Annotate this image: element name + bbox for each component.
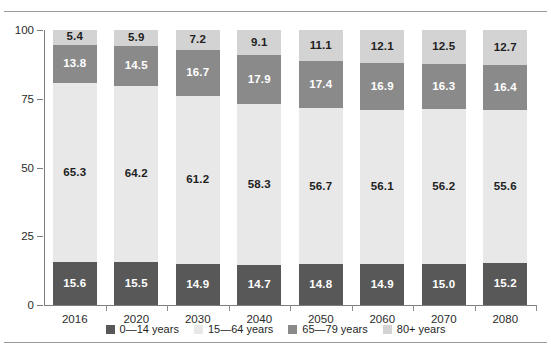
bar-segment[interactable]: 5.9 [114,30,158,46]
bar-segment[interactable]: 55.6 [483,110,527,263]
bar-segment-value-label: 56.1 [371,181,394,193]
bar-segment[interactable]: 11.1 [299,30,343,61]
bar-segment-value-label: 17.4 [309,79,332,91]
bottom-divider-rule [4,342,547,343]
bar-segment-value-label: 14.9 [371,279,394,291]
y-axis-tick [37,30,43,31]
top-divider-rule [4,11,547,12]
bar-segment-value-label: 16.3 [432,81,455,93]
bar-segment-value-label: 16.9 [371,81,394,93]
bar-segment[interactable]: 14.7 [237,265,281,305]
stacked-bar[interactable]: 14.956.116.912.1 [360,30,404,305]
bar-segment[interactable]: 7.2 [176,30,220,50]
x-axis-tick [106,305,107,311]
stacked-bar[interactable]: 15.056.216.312.5 [422,30,466,305]
bar-segment-value-label: 9.1 [251,37,267,49]
legend-label: 0—14 years [120,323,179,335]
stacked-bar[interactable]: 15.255.616.412.7 [483,30,527,305]
bar-segment-value-label: 14.9 [186,279,209,291]
y-axis-tick [37,99,43,100]
bar-segment[interactable]: 15.0 [422,264,466,305]
bar-segment-value-label: 14.5 [125,60,148,72]
legend-swatch-icon [106,325,115,334]
bar-segment[interactable]: 16.4 [483,65,527,110]
bar-segment-value-label: 14.8 [309,279,332,291]
bar-segment-value-label: 11.1 [310,40,332,52]
bar-segment[interactable]: 17.9 [237,55,281,104]
stacked-bar[interactable]: 14.961.216.77.2 [176,30,220,305]
bar-segment[interactable]: 12.7 [483,30,527,65]
bar-segment-value-label: 13.8 [63,58,86,70]
bar-segment[interactable]: 14.9 [360,264,404,305]
legend-item[interactable]: 0—14 years [106,323,179,335]
legend-swatch-icon [383,325,392,334]
bar-segment-value-label: 56.7 [309,181,332,193]
bar-segment-value-label: 64.2 [125,168,148,180]
bar-segment[interactable]: 56.7 [299,108,343,264]
bar-segment-value-label: 5.4 [67,31,83,43]
bar-segment-value-label: 16.4 [494,82,517,94]
bar-segment-value-label: 55.6 [494,181,517,193]
bar-segment[interactable]: 58.3 [237,104,281,264]
bar-segment[interactable]: 16.9 [360,63,404,109]
bar-segment[interactable]: 65.3 [53,83,97,263]
y-axis-tick-label: 50 [21,162,34,174]
bar-segment[interactable]: 14.8 [299,264,343,305]
bar-segment-value-label: 14.7 [248,279,271,291]
x-axis-tick [536,305,537,311]
bar-segment-value-label: 17.9 [248,74,271,86]
bar-segment-value-label: 5.9 [128,32,144,44]
stacked-bar[interactable]: 14.758.317.99.1 [237,30,281,305]
bar-segment[interactable]: 17.4 [299,61,343,109]
bar-segment-value-label: 12.5 [432,41,455,53]
legend-item[interactable]: 15—64 years [194,323,273,335]
x-axis-tick [167,305,168,311]
bar-segment-value-label: 15.6 [63,278,86,290]
bar-segment[interactable]: 14.5 [114,46,158,86]
chart-figure: 0255075100 15.665.313.85.415.564.214.55.… [0,0,551,355]
legend-label: 15—64 years [208,323,273,335]
y-axis-line [44,30,45,305]
y-axis-tick-label: 0 [28,299,34,311]
bar-segment[interactable]: 56.1 [360,110,404,264]
y-axis-tick-label: 100 [15,24,34,36]
stacked-bar[interactable]: 15.564.214.55.9 [114,30,158,305]
bar-segment[interactable]: 12.1 [360,30,404,63]
bar-segment-value-label: 58.3 [248,179,271,191]
bar-segment[interactable]: 61.2 [176,96,220,264]
x-axis-tick [475,305,476,311]
bar-segment[interactable]: 9.1 [237,30,281,55]
bar-segment-value-label: 12.1 [371,41,394,53]
bar-segment-value-label: 15.5 [125,278,148,290]
legend-label: 65—79 years [302,323,367,335]
bar-segment-value-label: 65.3 [63,167,86,179]
y-axis-tick [37,168,43,169]
chart-legend: 0—14 years15—64 years65—79 years80+ year… [0,323,551,335]
bar-segment[interactable]: 15.6 [53,262,97,305]
bar-segment-value-label: 61.2 [186,174,209,186]
legend-swatch-icon [194,325,203,334]
y-axis-tick [37,236,43,237]
bar-segment[interactable]: 15.5 [114,262,158,305]
bar-segment[interactable]: 56.2 [422,109,466,264]
bar-segment[interactable]: 12.5 [422,30,466,64]
bar-segment[interactable]: 5.4 [53,30,97,45]
bar-segment-value-label: 7.2 [190,34,206,46]
stacked-bar[interactable]: 15.665.313.85.4 [53,30,97,305]
legend-swatch-icon [288,325,297,334]
bar-segment[interactable]: 13.8 [53,45,97,83]
bar-segment[interactable]: 15.2 [483,263,527,305]
x-axis-tick [352,305,353,311]
bar-segment-value-label: 16.7 [186,67,209,79]
y-axis-tick-label: 75 [21,93,34,105]
bar-segment[interactable]: 14.9 [176,264,220,305]
stacked-bar[interactable]: 14.856.717.411.1 [299,30,343,305]
x-axis-tick [290,305,291,311]
legend-item[interactable]: 80+ years [383,323,446,335]
legend-item[interactable]: 65—79 years [288,323,367,335]
bar-segment[interactable]: 16.3 [422,64,466,109]
x-axis-tick [413,305,414,311]
bar-segment[interactable]: 64.2 [114,86,158,263]
bar-segment[interactable]: 16.7 [176,50,220,96]
y-axis-tick [37,305,43,306]
